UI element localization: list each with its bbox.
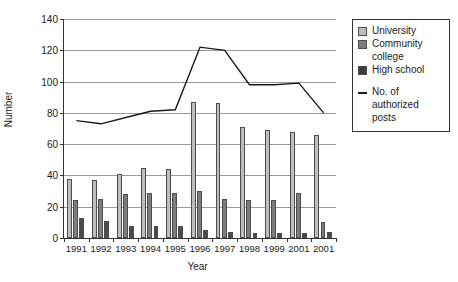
x-tick-mark <box>287 238 288 242</box>
legend-label: High school <box>372 64 424 76</box>
legend-item: posts <box>358 112 445 124</box>
x-tick-label: 1992 <box>91 243 112 254</box>
x-tick-mark <box>311 238 312 242</box>
legend-label: college <box>372 51 404 63</box>
x-tick-mark <box>138 238 139 242</box>
legend-label: No. of <box>372 86 399 98</box>
y-tick-label: 120 <box>41 45 58 56</box>
x-tick-mark <box>89 238 90 242</box>
x-tick-label: 1999 <box>264 243 285 254</box>
x-tick-mark <box>336 238 337 242</box>
legend-label: authorized <box>372 99 419 111</box>
x-tick-label: 2001 <box>288 243 309 254</box>
y-tick-label: 40 <box>47 170 58 181</box>
x-tick-mark <box>113 238 114 242</box>
x-tick-label: 1997 <box>214 243 235 254</box>
legend-label: Community <box>372 38 423 50</box>
x-tick-label: 1996 <box>189 243 210 254</box>
legend-swatch-icon <box>358 27 367 36</box>
legend-spacer <box>358 77 445 86</box>
chart-figure: Number Year 020406080100120140 199119921… <box>0 0 458 282</box>
legend-item: High school <box>358 64 445 76</box>
y-axis-title: Number <box>3 75 14 145</box>
y-tick-label: 0 <box>52 233 58 244</box>
legend-item: No. of <box>358 86 445 98</box>
x-tick-mark <box>163 238 164 242</box>
line-path <box>76 47 323 124</box>
legend-label: University <box>372 25 416 37</box>
y-tick-label: 100 <box>41 76 58 87</box>
legend-line-icon <box>358 88 367 97</box>
y-tick-label: 20 <box>47 201 58 212</box>
y-tick-label: 80 <box>47 107 58 118</box>
x-tick-label: 2001 <box>313 243 334 254</box>
chart-legend: UniversityCommunitycollegeHigh schoolNo.… <box>352 19 450 132</box>
legend-item: Community <box>358 38 445 50</box>
x-tick-mark <box>262 238 263 242</box>
x-tick-label: 1991 <box>66 243 87 254</box>
plot-area: 020406080100120140 199119921993199419951… <box>63 19 336 239</box>
legend-swatch-icon <box>358 40 367 49</box>
y-tick-label: 140 <box>41 14 58 25</box>
x-axis-title: Year <box>60 261 335 272</box>
legend-item: college <box>358 51 445 63</box>
x-tick-label: 1998 <box>239 243 260 254</box>
legend-item: authorized <box>358 99 445 111</box>
legend-label: posts <box>372 112 396 124</box>
legend-item: University <box>358 25 445 37</box>
x-tick-mark <box>64 238 65 242</box>
x-tick-label: 1995 <box>165 243 186 254</box>
legend-swatch-icon <box>358 66 367 75</box>
x-tick-mark <box>237 238 238 242</box>
y-tick-label: 60 <box>47 139 58 150</box>
x-tick-mark <box>212 238 213 242</box>
x-tick-label: 1993 <box>115 243 136 254</box>
line-series-authorized-posts <box>64 19 336 238</box>
x-tick-label: 1994 <box>140 243 161 254</box>
x-tick-mark <box>188 238 189 242</box>
